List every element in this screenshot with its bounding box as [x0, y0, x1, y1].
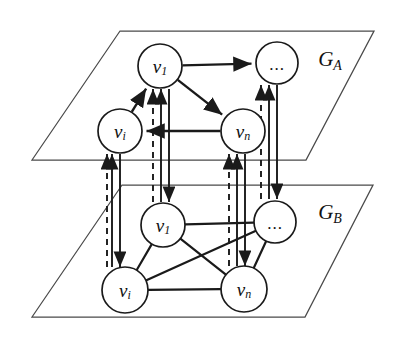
edge-eb-v1-vi [137, 244, 152, 269]
diagram-canvas: v1...vivnv1...vivn GAGB [0, 0, 400, 340]
plane-outlines [32, 31, 374, 317]
edge-eb-v1-dots [185, 223, 253, 225]
node-b-dots[interactable]: ... [254, 201, 296, 243]
node-b-v1[interactable]: v1 [141, 203, 185, 247]
edge-ea-vi-v1 [132, 89, 146, 112]
node-a-v1[interactable]: v1 [138, 44, 182, 88]
plane-labels: GAGB [318, 47, 342, 226]
node-a-vi[interactable]: vi [98, 109, 142, 153]
node-a-vn[interactable]: vn [221, 109, 265, 153]
edge-ea-v1-dots [182, 64, 251, 66]
node-b-vi[interactable]: vi [102, 267, 148, 313]
plane-label-gb: GB [318, 200, 342, 226]
edge-eb-vn-dots [254, 242, 266, 268]
edge-eb-vi-vn [148, 289, 220, 290]
plane-label-ga: GA [318, 47, 342, 73]
node-b-vn[interactable]: vn [221, 266, 267, 312]
graph-nodes: v1...vivnv1...vivn [98, 42, 298, 313]
node-label-b-dots: ... [267, 214, 283, 233]
edge-eb-v1-vn [181, 239, 226, 274]
node-a-dots[interactable]: ... [256, 42, 298, 84]
figure-root: v1...vivnv1...vivn GAGB [0, 0, 400, 340]
edge-ea-v1-vn [178, 80, 222, 115]
node-label-a-dots: ... [269, 55, 285, 74]
